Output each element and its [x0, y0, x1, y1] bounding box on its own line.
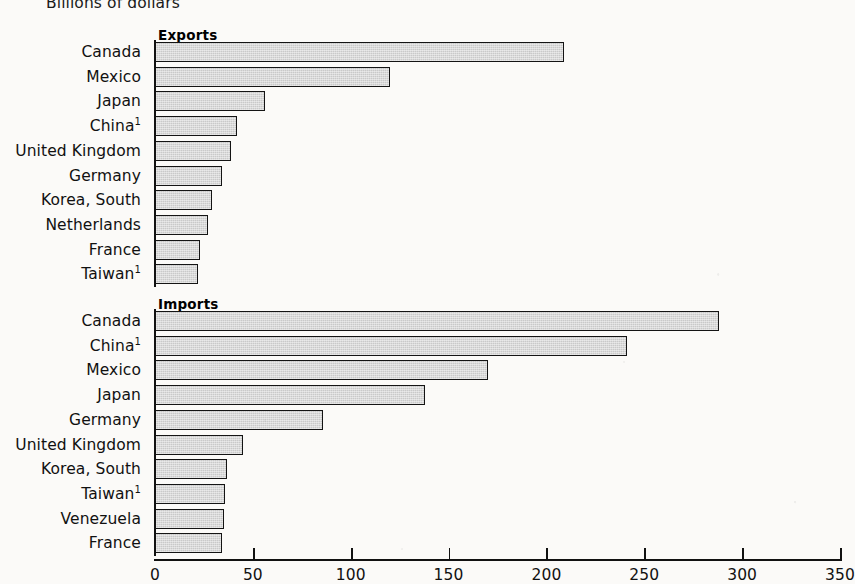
- bar-row: China1: [0, 336, 840, 356]
- x-axis-tick-label: 50: [243, 566, 263, 584]
- footnote-marker: 1: [135, 264, 141, 275]
- bar: [155, 459, 227, 479]
- y-axis-line: [154, 40, 156, 287]
- bar: [155, 141, 231, 161]
- bar: [155, 190, 212, 210]
- bar-row: Japan: [0, 91, 840, 111]
- bar-row: Germany: [0, 410, 840, 430]
- bar: [155, 67, 390, 87]
- bar: [155, 215, 208, 235]
- x-axis-tick-label: 150: [434, 566, 464, 584]
- bar: [155, 509, 224, 529]
- x-axis-tick-label: 250: [629, 566, 659, 584]
- x-axis-tick-label: 300: [727, 566, 757, 584]
- bar-row: United Kingdom: [0, 435, 840, 455]
- bar-row: France: [0, 240, 840, 260]
- bar-category-label: Japan: [97, 386, 141, 404]
- y-axis-line: [154, 309, 156, 556]
- bar-category-label: Germany: [69, 167, 141, 185]
- bar-category-label: Korea, South: [41, 460, 141, 478]
- bar-category-label: France: [89, 241, 141, 259]
- bar: [155, 336, 627, 356]
- bar-category-label: Canada: [81, 43, 141, 61]
- bar: [155, 484, 225, 504]
- bar-row: China1: [0, 116, 840, 136]
- bar: [155, 435, 243, 455]
- bar-row: Korea, South: [0, 459, 840, 479]
- x-axis-tick: [253, 548, 255, 559]
- bar-row: Germany: [0, 166, 840, 186]
- bar-category-label: France: [89, 534, 141, 552]
- bar: [155, 166, 222, 186]
- bar-row: France: [0, 533, 840, 553]
- bar: [155, 410, 323, 430]
- bar-row: Netherlands: [0, 215, 840, 235]
- bar-category-label: Korea, South: [41, 191, 141, 209]
- bar-row: United Kingdom: [0, 141, 840, 161]
- bar: [155, 116, 237, 136]
- bar-row: Korea, South: [0, 190, 840, 210]
- bar-category-label: China1: [90, 337, 141, 355]
- footnote-marker: 1: [135, 116, 141, 127]
- footnote-marker: 1: [135, 484, 141, 495]
- bar-category-label: China1: [90, 117, 141, 135]
- bar-chart-plot: CanadaMexicoJapanChina1United KingdomGer…: [0, 0, 855, 584]
- bar: [155, 360, 488, 380]
- bar-row: Mexico: [0, 67, 840, 87]
- bar-category-label: Taiwan1: [81, 265, 141, 283]
- bar-row: Taiwan1: [0, 264, 840, 284]
- bar-category-label: United Kingdom: [15, 436, 141, 454]
- x-axis-tick: [546, 548, 548, 559]
- bar-row: Mexico: [0, 360, 840, 380]
- x-axis-tick: [449, 548, 451, 559]
- bar-row: Taiwan1: [0, 484, 840, 504]
- x-axis-tick: [644, 548, 646, 559]
- x-axis-tick: [840, 548, 842, 559]
- bar-category-label: Mexico: [86, 68, 141, 86]
- bar: [155, 385, 425, 405]
- bar: [155, 240, 200, 260]
- bar-row: Canada: [0, 311, 840, 331]
- bar: [155, 91, 265, 111]
- x-axis-tick: [742, 548, 744, 559]
- x-axis-tick-label: 100: [336, 566, 366, 584]
- bar-category-label: Taiwan1: [81, 485, 141, 503]
- footnote-marker: 1: [135, 336, 141, 347]
- bar-row: Canada: [0, 42, 840, 62]
- bar: [155, 264, 198, 284]
- bar-category-label: Canada: [81, 312, 141, 330]
- bar-category-label: Germany: [69, 411, 141, 429]
- bar: [155, 533, 222, 553]
- bar: [155, 42, 564, 62]
- bar-category-label: Netherlands: [45, 216, 141, 234]
- bar-category-label: United Kingdom: [15, 142, 141, 160]
- bar-row: Venezuela: [0, 509, 840, 529]
- bar: [155, 311, 719, 331]
- bar-category-label: Venezuela: [61, 510, 142, 528]
- x-axis-tick-label: 200: [531, 566, 561, 584]
- bar-category-label: Mexico: [86, 361, 141, 379]
- x-axis-tick: [351, 548, 353, 559]
- x-axis-line: [154, 559, 842, 561]
- x-axis-tick-label: 0: [150, 566, 160, 584]
- bar-row: Japan: [0, 385, 840, 405]
- chart-page: Billions of dollars Exports Imports Cana…: [0, 0, 855, 584]
- x-axis-tick-label: 350: [825, 566, 855, 584]
- bar-category-label: Japan: [97, 92, 141, 110]
